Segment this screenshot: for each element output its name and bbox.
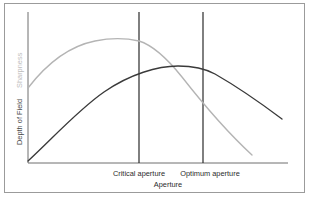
aperture-chart: Critical aperture Optimum aperture Apert…: [0, 0, 310, 199]
optimum-aperture-label: Optimum aperture: [180, 169, 240, 178]
critical-aperture-label: Critical aperture: [113, 169, 165, 178]
x-axis-title: Aperture: [154, 180, 182, 189]
y-axis-title-sharpness: Sharpness: [15, 52, 24, 88]
sharpness-curve: [28, 39, 252, 155]
y-axis-title-depth-of-field: Depth of Field: [15, 99, 24, 145]
